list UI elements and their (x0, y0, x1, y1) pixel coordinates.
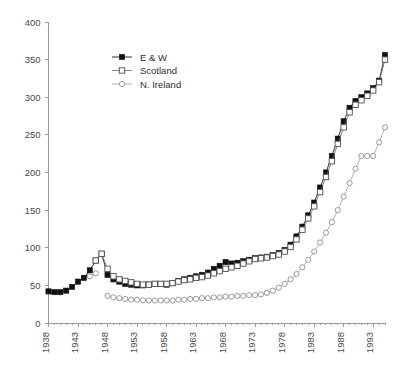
series-marker-0 (217, 263, 222, 268)
series-marker-1 (282, 249, 287, 254)
series-marker-1 (176, 279, 181, 284)
series-marker-1 (199, 274, 204, 279)
series-marker-2 (205, 296, 210, 301)
series-marker-2 (317, 240, 322, 245)
series-marker-2 (123, 296, 128, 301)
legend-marker-2 (119, 81, 124, 86)
series-marker-1 (317, 189, 322, 194)
series-marker-1 (353, 102, 358, 107)
x-tick-label: 1983 (305, 332, 316, 353)
x-tick-label: 1948 (99, 332, 110, 353)
series-marker-0 (223, 259, 228, 264)
series-marker-2 (312, 249, 317, 254)
series-marker-2 (111, 295, 116, 300)
series-marker-1 (182, 277, 187, 282)
y-tick-label: 400 (25, 17, 41, 28)
y-tick-label: 50 (30, 280, 41, 291)
series-marker-1 (235, 263, 240, 268)
y-tick-label: 300 (25, 92, 41, 103)
series-marker-2 (188, 296, 193, 301)
series-marker-2 (323, 230, 328, 235)
series-marker-2 (93, 271, 98, 276)
series-marker-1 (341, 125, 346, 130)
series-marker-1 (99, 251, 104, 256)
series-marker-2 (347, 180, 352, 185)
series-marker-1 (306, 216, 311, 221)
series-marker-2 (223, 294, 228, 299)
series-marker-0 (70, 284, 75, 289)
series-marker-2 (176, 297, 181, 302)
series-marker-2 (140, 298, 145, 303)
series-marker-2 (146, 298, 151, 303)
series-marker-2 (365, 153, 370, 158)
x-tick-label: 1993 (364, 332, 375, 353)
y-tick-label: 250 (25, 129, 41, 140)
x-tick-label: 1968 (217, 332, 228, 353)
x-tick-label: 1973 (246, 332, 257, 353)
series-marker-0 (87, 268, 92, 273)
series-marker-1 (229, 265, 234, 270)
series-marker-2 (359, 153, 364, 158)
series-marker-2 (270, 288, 275, 293)
series-marker-2 (371, 153, 376, 158)
series-marker-1 (347, 110, 352, 115)
series-marker-2 (134, 297, 139, 302)
series-marker-1 (264, 255, 269, 260)
series-marker-1 (252, 256, 257, 261)
series-marker-1 (211, 271, 216, 276)
series-marker-1 (152, 281, 157, 286)
series-marker-2 (193, 296, 198, 301)
series-marker-2 (282, 281, 287, 286)
series-marker-1 (258, 256, 263, 261)
series-marker-1 (217, 268, 222, 273)
series-marker-2 (152, 298, 157, 303)
series-marker-0 (58, 290, 63, 295)
series-marker-2 (117, 296, 122, 301)
x-tick-label: 1943 (69, 332, 80, 353)
series-line-1 (96, 60, 385, 285)
series-marker-1 (146, 282, 151, 287)
series-marker-1 (105, 266, 110, 271)
series-marker-2 (229, 294, 234, 299)
series-marker-1 (164, 281, 169, 286)
series-marker-1 (323, 174, 328, 179)
x-tick-label: 1988 (335, 332, 346, 353)
series-marker-2 (235, 293, 240, 298)
series-marker-1 (288, 244, 293, 249)
series-marker-1 (365, 93, 370, 98)
series-marker-1 (205, 273, 210, 278)
series-marker-1 (123, 278, 128, 283)
series-marker-2 (182, 297, 187, 302)
y-tick-label: 200 (25, 167, 41, 178)
legend-label-1: Scotland (140, 65, 177, 76)
series-marker-0 (52, 290, 57, 295)
series-marker-2 (306, 257, 311, 262)
x-tick-label: 1963 (187, 332, 198, 353)
series-marker-2 (170, 298, 175, 303)
series-marker-1 (300, 227, 305, 232)
y-tick-label: 150 (25, 205, 41, 216)
series-marker-0 (105, 272, 110, 277)
series-marker-0 (46, 289, 51, 294)
series-marker-1 (111, 274, 116, 279)
series-marker-2 (264, 290, 269, 295)
series-marker-1 (128, 280, 133, 285)
series-marker-1 (247, 259, 252, 264)
series-marker-1 (311, 204, 316, 209)
series-marker-1 (241, 261, 246, 266)
x-tick-label: 1938 (40, 332, 51, 353)
series-marker-0 (81, 275, 86, 280)
y-tick-label: 100 (25, 242, 41, 253)
series-marker-2 (382, 125, 387, 130)
x-tick-label: 1978 (276, 332, 287, 353)
series-marker-0 (75, 279, 80, 284)
series-marker-1 (117, 277, 122, 282)
series-marker-2 (288, 277, 293, 282)
series-marker-1 (193, 275, 198, 280)
series-marker-2 (164, 298, 169, 303)
series-marker-2 (353, 166, 358, 171)
series-marker-1 (376, 80, 381, 85)
series-marker-2 (129, 297, 134, 302)
series-marker-2 (87, 274, 92, 279)
series-marker-2 (258, 292, 263, 297)
